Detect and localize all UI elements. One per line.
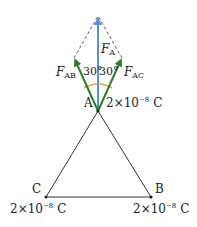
point-c-charge-exp: −8 [43, 202, 53, 210]
point-a-charge-value: 2×10 [106, 96, 139, 110]
force-a-sub: A [109, 48, 115, 57]
point-b-charge-unit: C [180, 202, 189, 216]
point-b-charge: 2×10−8 C [133, 203, 189, 215]
point-b-charge-exp: −8 [166, 202, 176, 210]
point-c-dot [44, 195, 47, 198]
triangle-abc [46, 111, 151, 197]
point-a-charge: 2×10−8 C [106, 97, 162, 109]
diagram-graphics [0, 0, 197, 227]
force-a-label: FA [101, 43, 115, 57]
force-ab-label: FAB [56, 66, 76, 80]
point-a-charge-unit: C [153, 96, 162, 110]
force-ac-sub: AC [132, 71, 144, 80]
force-ab-sub: AB [64, 71, 76, 80]
point-c-charge-value: 2×10 [10, 202, 43, 216]
point-b-charge-value: 2×10 [133, 202, 166, 216]
point-c-charge-unit: C [57, 202, 66, 216]
point-c-charge: 2×10−8 C [10, 203, 66, 215]
point-b-dot [149, 195, 152, 198]
point-a-dot [96, 109, 99, 112]
force-ac-label: FAC [124, 66, 144, 80]
point-a-charge-exp: −8 [139, 96, 149, 104]
force-diagram: FA FAB FAC 30° 30° A 2×10−8 C C 2×10−8 C… [0, 0, 197, 227]
point-c-label: C [32, 183, 41, 195]
angle-right-label: 30° [99, 66, 119, 77]
point-b-label: B [155, 183, 164, 195]
point-a-label: A [84, 97, 93, 109]
